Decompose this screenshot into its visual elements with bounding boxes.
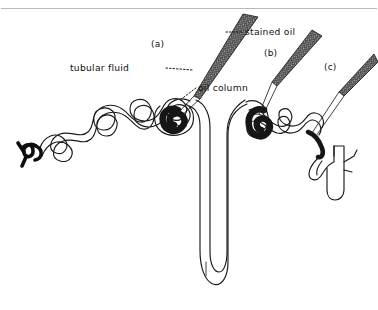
label-stained-oil: stained oil — [245, 26, 295, 37]
label-tubular-fluid: tubular fluid — [70, 62, 129, 73]
nephron-micropuncture-figure: stained oil tubular fluid oil column (a)… — [0, 0, 378, 310]
label-oil-column: oil column — [198, 82, 248, 93]
marker-label-a: (a) — [151, 39, 164, 49]
marker-label-c: (c) — [324, 62, 337, 72]
marker-label-b: (b) — [264, 48, 277, 58]
